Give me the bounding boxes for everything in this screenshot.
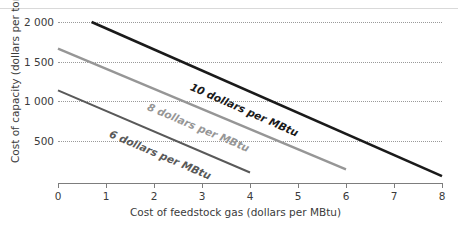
x-tick-label-3: 3 xyxy=(190,190,214,202)
x-tick-label-4: 4 xyxy=(238,190,262,202)
x-tick-1 xyxy=(106,183,107,188)
x-tick-label-5: 5 xyxy=(286,190,310,202)
x-tick-3 xyxy=(202,183,203,188)
x-tick-label-0: 0 xyxy=(46,190,70,202)
chart-container: 2 000 1 500 1 000 500 6 dollars per MBtu… xyxy=(0,0,458,231)
x-tick-8 xyxy=(442,183,443,188)
y-axis-title: Cost of capacity (dollars per tonne) xyxy=(9,0,21,163)
x-tick-7 xyxy=(394,183,395,188)
x-tick-2 xyxy=(154,183,155,188)
x-tick-5 xyxy=(298,183,299,188)
x-tick-4 xyxy=(250,183,251,188)
x-tick-label-1: 1 xyxy=(94,190,118,202)
x-tick-label-2: 2 xyxy=(142,190,166,202)
x-tick-0 xyxy=(58,183,59,188)
x-tick-label-8: 8 xyxy=(430,190,454,202)
x-tick-label-6: 6 xyxy=(334,190,358,202)
x-tick-label-7: 7 xyxy=(382,190,406,202)
x-axis-title: Cost of feedstock gas (dollars per MBtu) xyxy=(130,206,430,218)
x-tick-6 xyxy=(346,183,347,188)
